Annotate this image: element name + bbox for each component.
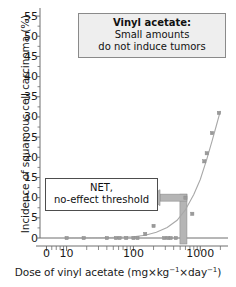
chart-container: Incidence of squamous cell carcinoma (%)… [0,0,236,287]
data-point [114,236,117,239]
data-points [65,111,221,239]
data-point [105,236,108,239]
data-point [125,236,128,239]
threshold-horizontal-bar [160,194,187,201]
x-tick-label: 0 [43,248,50,259]
x-tick-label: 10 [60,248,74,259]
fit-curve [67,111,221,238]
x-axis-title: Dose of vinyl acetate (mg×kg−1×day−1) [0,266,236,278]
callout-line: NET, [48,182,155,194]
data-point [174,236,177,239]
data-point [152,224,155,227]
data-point [118,236,121,239]
x-tick-label: 100 [123,248,144,259]
data-point [132,236,135,239]
x-axis-exponent-2: −1 [207,266,217,274]
data-point [144,232,147,235]
callout-line: Small amounts [81,29,223,41]
data-point [210,131,213,134]
x-axis-exponent-1: −1 [169,266,179,274]
data-point [169,236,172,239]
data-point [136,236,139,239]
data-point [184,196,187,199]
data-point [205,152,208,155]
data-point [65,236,68,239]
x-axis-tick-labels: 0101001000 [0,248,236,264]
threshold-vertical-bar [180,194,187,244]
callout-line: no-effect threshold [48,194,155,206]
data-point [82,236,85,239]
callout-line: do not induce tumors [81,41,223,53]
data-point [217,111,220,114]
callout-line: Vinyl acetate: [81,17,223,29]
data-point [203,160,206,163]
net-callout-box: NET,no-effect threshold [45,178,158,211]
x-tick-label: 1000 [186,248,214,259]
data-point [163,236,166,239]
title-callout-box: Vinyl acetate:Small amountsdo not induce… [78,13,226,58]
data-point [191,212,194,215]
